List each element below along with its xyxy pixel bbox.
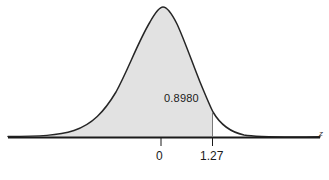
x-axis-tick-label-z-value: 1.27 (200, 150, 223, 162)
x-axis-tick-label-zero: 0 (156, 150, 163, 162)
x-axis-title: z (319, 130, 323, 138)
distribution-plot (0, 0, 329, 180)
normal-distribution-figure: 0.8980 0 1.27 z (0, 0, 329, 180)
area-probability-label: 0.8980 (164, 93, 199, 104)
shaded-area-region (8, 7, 213, 137)
